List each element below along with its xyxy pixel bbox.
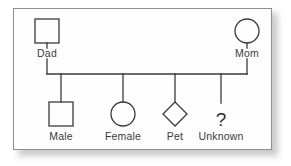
mom-label: Mom — [235, 47, 259, 59]
unknown-label: Unknown — [198, 130, 243, 142]
genogram-screenshot: DadMomMaleFemalePet?Unknown — [0, 0, 291, 166]
male-square-symbol[interactable] — [49, 102, 73, 126]
unknown-question-mark-symbol[interactable]: ? — [216, 110, 227, 129]
female-circle-symbol[interactable] — [235, 19, 259, 43]
pet-diamond-symbol[interactable] — [163, 102, 187, 126]
female-circle-symbol[interactable] — [111, 102, 135, 126]
male-label: Male — [49, 130, 73, 142]
female-label: Female — [105, 130, 141, 142]
dad-label: Dad — [37, 47, 57, 59]
connector-lines — [47, 43, 247, 103]
pet-label: Pet — [167, 130, 183, 142]
male-square-symbol[interactable] — [35, 19, 59, 43]
diagram-card: DadMomMaleFemalePet?Unknown — [13, 8, 272, 150]
